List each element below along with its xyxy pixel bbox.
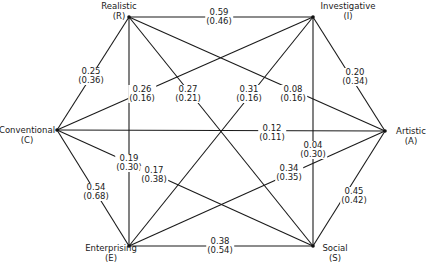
node-code: (R): [99, 11, 139, 21]
edge-label-s-e: 0.38(0.54): [206, 237, 234, 255]
node-label-enterprising: Enterprising(E): [81, 243, 141, 263]
node-label-investigative: Investigative(I): [313, 1, 383, 21]
edge-paren-value: (0.46): [206, 17, 232, 26]
node-name: Realistic: [99, 1, 139, 11]
node-code: (I): [313, 11, 383, 21]
node-name: Enterprising: [81, 243, 141, 253]
edge-paren-value: (0.68): [83, 192, 109, 201]
edge-paren-value: (0.21): [175, 94, 201, 103]
edge-label-r-s: 0.27(0.21): [174, 85, 202, 103]
edge-paren-value: (0.42): [341, 196, 367, 205]
edge-paren-value: (0.11): [259, 133, 285, 142]
edge-label-c-r: 0.25(0.36): [77, 67, 105, 85]
edge-label-e-c: 0.54(0.68): [82, 183, 110, 201]
edge-paren-value: (0.30): [116, 163, 142, 172]
edge-label-a-s: 0.45(0.42): [340, 187, 368, 205]
edge-label-i-e: 0.31(0.16): [235, 85, 263, 103]
edge-paren-value: (0.16): [236, 94, 262, 103]
edge-label-i-a: 0.20(0.34): [341, 68, 369, 86]
node-code: (S): [315, 253, 355, 263]
node-code: (E): [81, 253, 141, 263]
node-code: (A): [391, 136, 430, 146]
edge-label-c-s: 0.17(0.38): [140, 166, 168, 184]
edge-paren-value: (0.36): [78, 76, 104, 85]
edge-label-c-i: 0.26(0.16): [128, 85, 156, 103]
node-name: Investigative: [313, 1, 383, 11]
edge-paren-value: (0.30): [300, 150, 326, 159]
edge-paren-value: (0.38): [141, 175, 167, 184]
edge-paren-value: (0.16): [280, 94, 306, 103]
node-name: Social: [315, 243, 355, 253]
node-label-realistic: Realistic(R): [99, 1, 139, 21]
edge-c-a: [57, 130, 385, 131]
node-label-conventional: Conventional(C): [0, 125, 57, 145]
edge-label-r-e: 0.19(0.30): [115, 154, 143, 172]
edge-paren-value: (0.35): [276, 173, 302, 182]
edge-label-c-a: 0.12(0.11): [258, 124, 286, 142]
node-label-social: Social(S): [315, 243, 355, 263]
edge-label-a-e: 0.34(0.35): [275, 164, 303, 182]
node-code: (C): [0, 135, 57, 145]
edge-label-i-s: 0.04(0.30): [299, 141, 327, 159]
edge-paren-value: (0.16): [129, 94, 155, 103]
node-name: Artistic: [391, 126, 430, 136]
node-name: Conventional: [0, 125, 57, 135]
node-label-artistic: Artistic(A): [391, 126, 430, 146]
edge-paren-value: (0.54): [207, 246, 233, 255]
edge-label-r-i: 0.59(0.46): [205, 8, 233, 26]
vertex-artistic: [383, 129, 387, 133]
edge-label-r-a: 0.08(0.16): [279, 85, 307, 103]
edge-paren-value: (0.34): [342, 77, 368, 86]
